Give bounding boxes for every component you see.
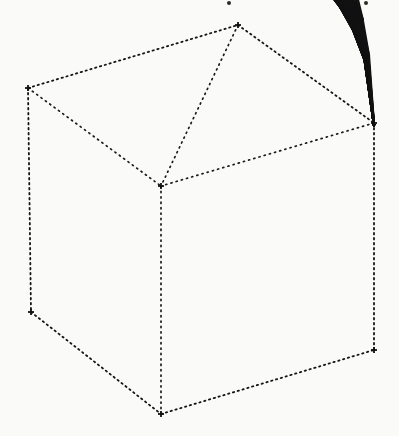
surface-plot-canvas — [0, 0, 399, 436]
top-edge-speck-left — [227, 1, 231, 5]
top-edge-speck-right — [364, 1, 368, 5]
plot-background — [0, 0, 399, 436]
figure-container — [0, 0, 399, 436]
